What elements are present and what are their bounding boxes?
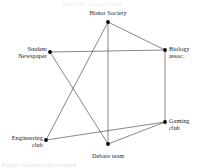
graph-edge — [50, 50, 165, 52]
graph-edge — [50, 52, 108, 144]
graph-node-biology_assoc[interactable] — [163, 48, 167, 52]
node-label-gaming_club: Gaming club — [169, 117, 190, 131]
graph-edge — [108, 122, 165, 144]
graph-node-student_newspaper[interactable] — [48, 50, 52, 54]
graph-edge — [108, 22, 165, 50]
node-layer — [44, 20, 167, 146]
node-label-biology_assoc: Biology assoc. — [169, 45, 190, 59]
cropped-text-bottom: Figure caption text cropped — [2, 162, 76, 168]
node-label-honor_society: Honor Society — [7, 9, 204, 16]
node-label-student_newspaper: Student Newspaper — [18, 45, 47, 59]
graph-node-honor_society[interactable] — [106, 20, 110, 24]
graph-node-debate_team[interactable] — [106, 142, 110, 146]
graph-node-gaming_club[interactable] — [163, 120, 167, 124]
node-label-debate_team: Debate team — [7, 152, 204, 159]
node-label-engineering_club: Engineering club — [12, 134, 43, 148]
graph-node-engineering_club[interactable] — [44, 138, 48, 142]
edge-layer — [46, 22, 165, 144]
graph-edge — [46, 122, 165, 140]
graph-edge — [46, 22, 108, 140]
club-network-figure: partially cropped line Honor SocietyStud… — [0, 0, 203, 168]
